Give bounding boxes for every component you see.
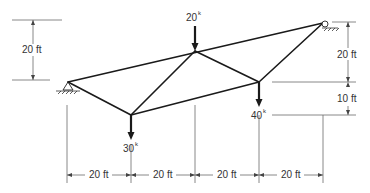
truss-diagram: 20 k 30 k 40 k 20 ft 20 ft 10 ft [0,0,370,193]
member-DE [259,23,323,82]
load-label-30: 30 [123,143,135,154]
member-CD [195,51,259,82]
dim-label-right-lower: 10 ft [337,93,357,104]
dim-label-right-upper: 20 ft [337,49,357,60]
load-unit-20: k [198,10,202,16]
member-AB [68,82,131,115]
load-20k: 20 k [186,10,202,51]
dimension-left-vertical: 20 ft [12,20,62,80]
dim-label-h4: 20 ft [281,169,301,180]
pin-support-icon [56,82,80,94]
load-unit-40: k [263,108,267,114]
dimension-right-vertical: 20 ft 10 ft [272,22,357,115]
dim-label-h1: 20 ft [89,169,109,180]
dim-label-h2: 20 ft [153,169,173,180]
load-label-20: 20 [186,12,198,23]
roller-support-icon [322,21,339,31]
load-label-40: 40 [251,110,263,121]
dim-label-h3: 20 ft [217,169,237,180]
dim-label-left: 20 ft [22,44,42,55]
load-unit-30: k [135,141,139,147]
